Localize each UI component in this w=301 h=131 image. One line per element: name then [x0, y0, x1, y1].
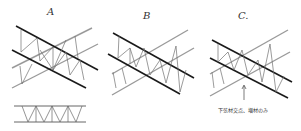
truss-b — [108, 30, 194, 95]
truss-c — [210, 30, 292, 100]
truss-a — [12, 26, 98, 122]
annotation-note: 下弦材交点、増材のみ — [218, 106, 268, 113]
